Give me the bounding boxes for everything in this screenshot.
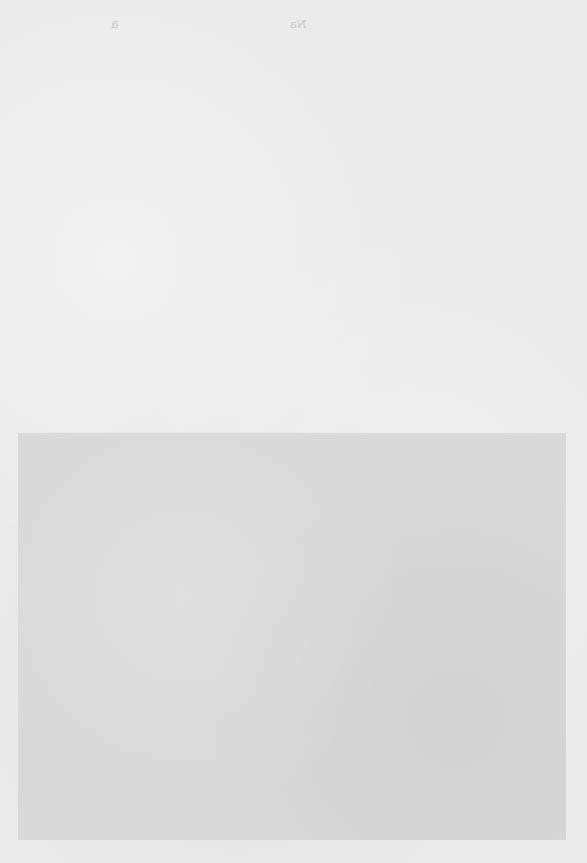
bleed-through-text: a [111, 16, 119, 31]
blank-image-plate [18, 433, 566, 840]
scanned-page: a Na [0, 0, 587, 863]
bleed-through-text: Na [290, 18, 306, 31]
